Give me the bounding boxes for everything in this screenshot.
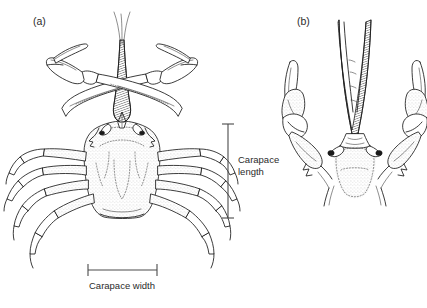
panel-b-label: (b) <box>297 15 310 27</box>
carapace-width-measurement: Carapace width <box>88 264 157 291</box>
crab-morphology-figure: (a) <box>0 0 427 308</box>
walking-legs-left <box>4 149 94 268</box>
rostrum-closeup <box>338 20 371 148</box>
figure-canvas: (a) <box>0 0 427 308</box>
carapace-width-label: Carapace width <box>89 280 155 291</box>
crab-frontal-closeup <box>282 20 427 206</box>
carapace <box>84 121 160 219</box>
cheliped-right-closeup <box>376 60 427 206</box>
carapace-length-label-line1: Carapace <box>238 154 279 165</box>
carapace-length-label-line2: length <box>238 166 264 177</box>
panel-a-label: (a) <box>33 15 46 27</box>
walking-legs-right <box>150 149 240 268</box>
cheliped-left-closeup <box>282 60 334 206</box>
crab-dorsal-view <box>4 12 240 268</box>
rostral-shaft <box>113 12 130 122</box>
